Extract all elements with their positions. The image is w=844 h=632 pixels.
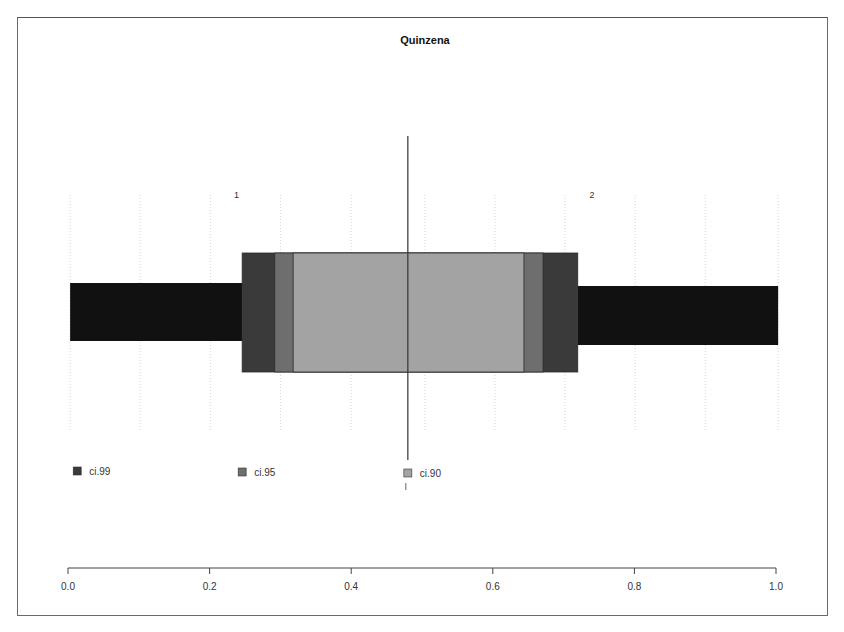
confidence-interval-boxes — [242, 253, 578, 372]
x-tick-label: 0.8 — [627, 581, 641, 592]
x-tick-label: 0.4 — [344, 581, 358, 592]
bar-group-1 — [70, 283, 242, 341]
x-axis: 0.00.20.40.60.81.0 — [61, 568, 783, 592]
legend: ci.99ci.95ci.90 — [73, 466, 441, 479]
legend-label-ci90: ci.90 — [420, 468, 442, 479]
interval-box-ci90 — [293, 253, 524, 372]
legend-swatch-ci99 — [73, 467, 81, 475]
bar-group-2 — [578, 286, 778, 345]
x-axis-ticks: 0.00.20.40.60.81.0 — [61, 568, 783, 592]
group-labels: 12 — [234, 190, 594, 200]
x-tick-label: 0.0 — [61, 581, 75, 592]
group-label-1: 1 — [234, 190, 239, 200]
x-tick-label: 0.2 — [203, 581, 217, 592]
chart-title: Quinzena — [400, 34, 450, 46]
legend-label-ci99: ci.99 — [89, 466, 111, 477]
group-label-2: 2 — [589, 190, 594, 200]
legend-label-ci95: ci.95 — [254, 467, 276, 478]
legend-swatch-ci90 — [404, 469, 412, 477]
interval-chart: Quinzena 12 ci.99ci.95ci.90 0.00.20.40.6… — [0, 0, 844, 632]
legend-swatch-ci95 — [238, 468, 246, 476]
x-tick-label: 0.6 — [486, 581, 500, 592]
x-tick-label: 1.0 — [769, 581, 783, 592]
